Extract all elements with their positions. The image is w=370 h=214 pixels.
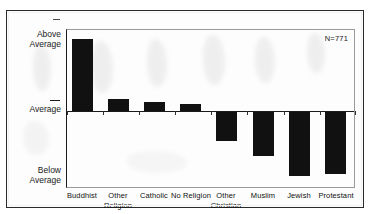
x-axis-tick <box>211 111 212 115</box>
bar-muslim <box>253 112 274 156</box>
x-axis-tick <box>139 111 140 115</box>
x-axis-tick <box>103 111 104 115</box>
x-axis-labels: Buddhist Other Religion Catholic No Reli… <box>66 191 355 214</box>
scan-blotch <box>23 121 49 155</box>
x-axis-tick <box>67 111 68 115</box>
y-axis-label-average: Average <box>9 105 61 115</box>
zero-line-stub <box>50 100 60 101</box>
bar-other-christian <box>216 112 237 141</box>
y-axis-label-above-average: Above Average <box>9 30 61 49</box>
x-label-protestant: Protestant <box>308 191 364 201</box>
bar-jewish <box>289 112 310 176</box>
scan-blotch <box>33 45 51 91</box>
figure-frame: Above Average Average Below Average N=77… <box>6 10 364 208</box>
x-axis-tick <box>320 111 321 115</box>
x-axis-tick <box>355 111 356 115</box>
scan-artifact-top-text <box>8 0 362 9</box>
x-axis-tick <box>284 111 285 115</box>
bar-protestant <box>325 112 346 174</box>
bar-other-religion <box>108 99 129 111</box>
x-axis-tick <box>175 111 176 115</box>
top-axis-stub <box>53 19 60 20</box>
x-axis-tick <box>247 111 248 115</box>
bar-buddhist <box>72 39 93 111</box>
bar-no-religion <box>180 104 201 111</box>
bar-catholic <box>144 102 165 111</box>
y-axis-label-below-average: Below Average <box>9 166 61 185</box>
plot-area: N=771 <box>66 29 355 188</box>
bars-layer <box>67 30 354 187</box>
